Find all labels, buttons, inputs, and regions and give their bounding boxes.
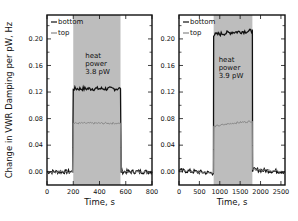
x-tick-label: 800 <box>146 188 158 196</box>
y-tick-label: 0.08 <box>161 115 175 123</box>
heat-power-annotation: power <box>219 64 241 72</box>
heat-shaded-region <box>73 15 120 185</box>
y-tick-label: 0.16 <box>29 62 43 70</box>
legend-label-bottom: bottom <box>58 18 83 26</box>
y-tick-label: 0.12 <box>29 88 43 96</box>
x-tick-label: 1000 <box>211 188 228 196</box>
legend-label-top: top <box>190 29 202 37</box>
right-panel: 0.000.040.080.120.160.200500100015002000… <box>161 15 290 207</box>
x-tick-label: 600 <box>120 188 132 196</box>
y-tick-label: 0.12 <box>161 88 175 96</box>
y-tick-label: 0.20 <box>161 35 175 43</box>
left-panel: 0.000.040.080.120.160.200200400600800Tim… <box>29 15 159 207</box>
x-tick-label: 400 <box>93 188 105 196</box>
heat-power-annotation: power <box>85 60 107 68</box>
y-tick-label: 0.04 <box>29 141 43 149</box>
legend-label-top: top <box>58 29 70 37</box>
y-tick-label: 0.00 <box>161 168 175 176</box>
heat-power-annotation: heat <box>219 56 235 64</box>
y-tick-label: 0.00 <box>29 168 43 176</box>
legend: bottomtop <box>183 18 215 37</box>
x-tick-label: 500 <box>193 188 205 196</box>
y-tick-label: 0.16 <box>161 62 175 70</box>
y-axis-title: Change in VWR Damping per pW, Hz <box>4 21 14 178</box>
heat-power-annotation: 3.9 pW <box>219 72 244 80</box>
x-tick-label: 200 <box>67 188 79 196</box>
heat-shaded-region <box>214 15 253 185</box>
chart: Change in VWR Damping per pW, Hz 0.000.0… <box>0 0 298 221</box>
y-tick-label: 0.20 <box>29 35 43 43</box>
y-tick-label: 0.08 <box>29 115 43 123</box>
legend-label-bottom: bottom <box>190 18 215 26</box>
x-tick-label: 0 <box>45 188 49 196</box>
x-tick-label: 1500 <box>232 188 249 196</box>
y-tick-label: 0.04 <box>161 141 175 149</box>
heat-power-annotation: 3.8 pW <box>85 68 110 76</box>
x-tick-label: 2000 <box>252 188 269 196</box>
x-axis-title: Time, s <box>216 197 248 207</box>
x-axis-title: Time, s <box>83 197 115 207</box>
x-tick-label: 0 <box>177 188 181 196</box>
x-tick-label: 2500 <box>273 188 290 196</box>
heat-power-annotation: heat <box>85 52 101 60</box>
